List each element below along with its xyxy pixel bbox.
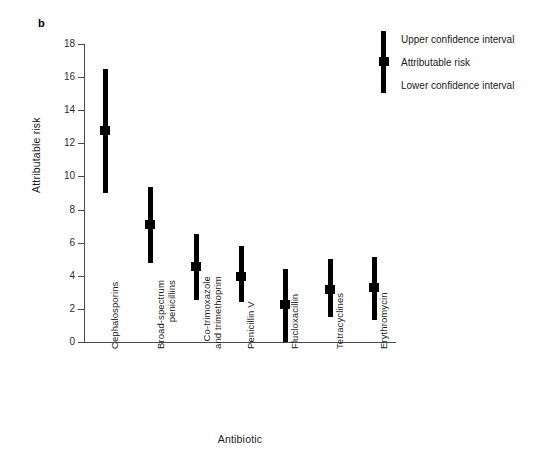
y-tick-mark	[78, 342, 84, 343]
y-tick-mark	[78, 276, 84, 277]
y-tick-mark	[78, 243, 84, 244]
x-axis-label-line: Erythromycin	[379, 292, 390, 349]
x-axis-label-line: and trimethoprim	[213, 276, 224, 349]
attributable-risk-marker	[236, 272, 246, 281]
x-axis-label-line: Tetracyclines	[335, 293, 346, 349]
y-tick-mark	[78, 143, 84, 144]
x-axis-line	[84, 342, 396, 343]
figure-panel-b: b Attributable risk Antibiotic 024681012…	[0, 0, 539, 454]
attributable-risk-marker	[100, 126, 110, 135]
y-tick-mark	[78, 309, 84, 310]
x-axis-label-3: Penicillin V	[246, 301, 257, 349]
legend: Upper confidence interval Attributable r…	[377, 28, 537, 108]
y-tick-label: 10	[64, 171, 75, 181]
x-axis-label-line: Co-trimoxazole	[202, 276, 213, 349]
y-tick-mark	[78, 77, 84, 78]
y-tick-label: 14	[64, 105, 75, 115]
attributable-risk-marker	[145, 220, 155, 229]
x-axis-label-line: Flucloxacillin	[290, 294, 301, 349]
y-tick-label: 2	[69, 304, 75, 314]
x-axis-label-0: Cephalosporins	[110, 282, 121, 349]
x-axis-label-4: Flucloxacillin	[290, 294, 301, 349]
y-tick-label: 6	[69, 238, 75, 248]
y-tick-label: 12	[64, 138, 75, 148]
x-axis-label-line: Cephalosporins	[110, 282, 121, 349]
y-tick-mark	[78, 44, 84, 45]
y-tick-label: 4	[69, 271, 75, 281]
legend-label-upper-ci: Upper confidence interval	[401, 35, 514, 45]
x-axis-label-line: Penicillin V	[246, 301, 257, 349]
y-tick-mark	[78, 176, 84, 177]
legend-label-lower-ci: Lower confidence interval	[401, 81, 514, 91]
x-axis-label-2: Co-trimoxazoleand trimethoprim	[202, 276, 223, 349]
x-axis-label-1: Broad-spectrumpenicillins	[156, 280, 177, 349]
x-axis-label-5: Tetracyclines	[335, 293, 346, 349]
y-tick-label: 18	[64, 39, 75, 49]
plot-area: 024681012141618	[84, 44, 395, 342]
x-axis-label-line: penicillins	[167, 280, 178, 349]
y-tick-label: 16	[64, 72, 75, 82]
attributable-risk-marker	[369, 283, 379, 292]
y-axis-title: Attributable risk	[30, 117, 42, 193]
y-tick-label: 8	[69, 205, 75, 215]
attributable-risk-marker	[191, 262, 201, 271]
y-tick-mark	[78, 110, 84, 111]
legend-label-attributable-risk: Attributable risk	[401, 58, 470, 68]
y-tick-label: 0	[69, 337, 75, 347]
panel-letter: b	[38, 17, 45, 29]
x-axis-label-line: Broad-spectrum	[156, 280, 167, 349]
x-axis-title: Antibiotic	[0, 433, 480, 445]
legend-risk-marker-icon	[379, 57, 389, 66]
x-axis-label-6: Erythromycin	[379, 292, 390, 349]
y-tick-mark	[78, 210, 84, 211]
